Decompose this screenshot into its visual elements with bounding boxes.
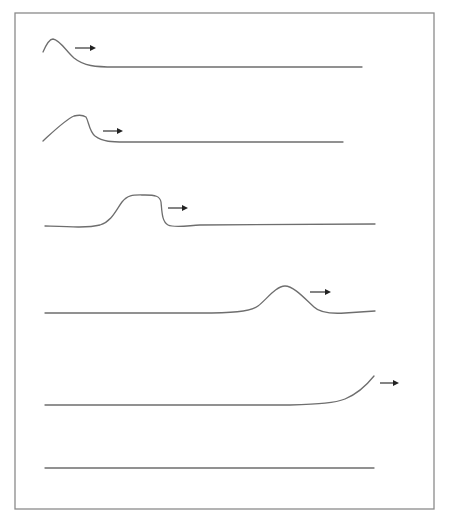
- arrow-right-icon: [75, 45, 96, 51]
- waveform-curve-2: [43, 115, 343, 142]
- waveform-curve-3: [45, 195, 375, 227]
- panel-1: [43, 39, 362, 67]
- waveform-curve-1: [43, 39, 362, 67]
- panel-2: [43, 115, 343, 142]
- pulse-propagation-diagram: [0, 0, 449, 523]
- panel-5: [45, 376, 399, 405]
- waveform-curve-5: [45, 376, 374, 405]
- arrow-right-icon: [103, 128, 123, 134]
- arrow-right-icon: [380, 380, 399, 386]
- arrow-right-icon: [310, 289, 331, 295]
- diagram-frame: [15, 13, 434, 509]
- panel-3: [45, 195, 375, 227]
- arrow-right-icon: [168, 205, 188, 211]
- panel-4: [45, 286, 375, 313]
